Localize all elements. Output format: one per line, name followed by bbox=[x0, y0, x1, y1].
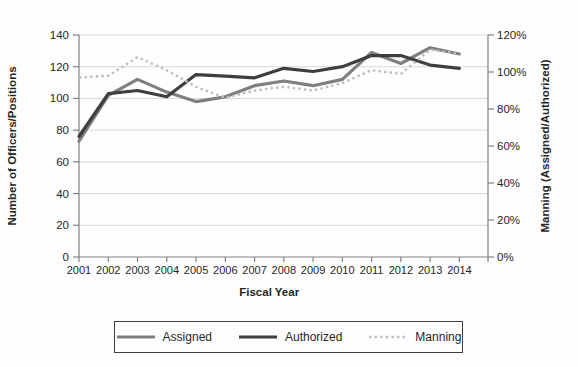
legend-label-assigned: Assigned bbox=[163, 330, 212, 344]
manning-chart-figure: 0204060801001201400%20%40%60%80%100%120%… bbox=[0, 0, 578, 367]
left-axis-tick-label: 140 bbox=[50, 29, 69, 41]
left-axis-tick-label: 20 bbox=[56, 219, 69, 231]
x-axis-tick-label: 2012 bbox=[389, 264, 413, 276]
legend-label-authorized: Authorized bbox=[285, 330, 342, 344]
chart-legend: Assigned Authorized Manning bbox=[114, 321, 463, 353]
x-axis-tick-label: 2008 bbox=[272, 264, 296, 276]
assigned-series-line bbox=[79, 48, 459, 142]
x-axis-tick-label: 2004 bbox=[155, 264, 179, 276]
x-axis-tick-label: 2005 bbox=[184, 264, 208, 276]
x-axis-tick-label: 2014 bbox=[447, 264, 471, 276]
x-axis-tick-label: 2009 bbox=[301, 264, 325, 276]
right-axis-tick-label: 80% bbox=[497, 103, 520, 115]
right-axis-tick-label: 20% bbox=[497, 214, 520, 226]
assigned-line-sample-icon bbox=[116, 334, 156, 340]
line-chart: 0204060801001201400%20%40%60%80%100%120%… bbox=[0, 0, 578, 314]
legend-item-manning: Manning bbox=[368, 330, 461, 344]
authorized-series-line bbox=[79, 56, 459, 137]
right-axis-title: Manning (Assigned/Authorized) bbox=[539, 59, 551, 232]
x-axis-tick-label: 2007 bbox=[242, 264, 266, 276]
x-axis-tick-label: 2006 bbox=[213, 264, 237, 276]
x-axis-tick-label: 2001 bbox=[67, 264, 91, 276]
authorized-line-sample-icon bbox=[238, 334, 278, 340]
left-axis-tick-label: 80 bbox=[56, 124, 69, 136]
x-axis-tick-label: 2011 bbox=[360, 264, 384, 276]
right-axis-tick-label: 0% bbox=[497, 251, 514, 263]
left-axis-tick-label: 40 bbox=[56, 188, 69, 200]
x-axis-title: Fiscal Year bbox=[239, 286, 299, 298]
left-axis-tick-label: 100 bbox=[50, 92, 69, 104]
right-axis-tick-label: 120% bbox=[497, 29, 526, 41]
x-axis-tick-label: 2013 bbox=[418, 264, 442, 276]
right-axis-tick-label: 60% bbox=[497, 140, 520, 152]
right-axis-tick-label: 40% bbox=[497, 177, 520, 189]
legend-label-manning: Manning bbox=[415, 330, 461, 344]
x-axis-tick-label: 2010 bbox=[330, 264, 354, 276]
manning-line-sample-icon bbox=[368, 334, 408, 340]
left-axis-tick-label: 60 bbox=[56, 156, 69, 168]
right-axis-tick-label: 100% bbox=[497, 66, 526, 78]
left-axis-tick-label: 120 bbox=[50, 61, 69, 73]
x-axis-tick-label: 2003 bbox=[125, 264, 149, 276]
left-axis-tick-label: 0 bbox=[63, 251, 69, 263]
legend-item-authorized: Authorized bbox=[238, 330, 342, 344]
x-axis-tick-label: 2002 bbox=[96, 264, 120, 276]
legend-item-assigned: Assigned bbox=[116, 330, 212, 344]
left-axis-title: Number of Officers/Positions bbox=[6, 66, 18, 225]
